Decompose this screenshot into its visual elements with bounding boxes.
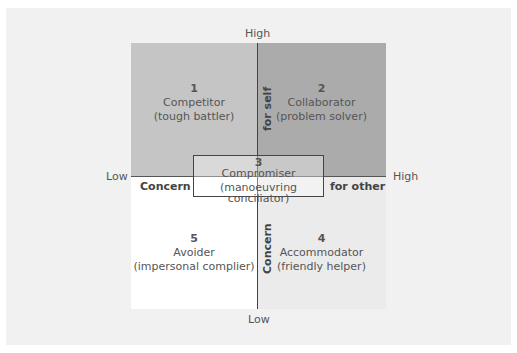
quadrant-number: 1 <box>131 82 257 96</box>
horizontal-title-left: Concern <box>140 180 191 193</box>
quadrant-number: 5 <box>131 232 257 246</box>
quadrant-4-label: 4 Accommodator (friendly helper) <box>257 232 386 274</box>
quadrant-title: Competitor <box>131 96 257 110</box>
axis-right-label: High <box>393 170 418 183</box>
quadrant-number: 2 <box>257 82 386 96</box>
quadrant-subtitle: (impersonal complier) <box>131 260 257 274</box>
vertical-title-top: for self <box>261 87 274 131</box>
quadrant-subtitle: (manoeuvring conciliator) <box>194 182 323 204</box>
quadrant-2-label: 2 Collaborator (problem solver) <box>257 82 386 124</box>
quadrant-subtitle: (problem solver) <box>257 110 386 124</box>
quadrant-number: 4 <box>257 232 386 246</box>
quadrant-title: Accommodator <box>257 246 386 260</box>
quadrant-title: Compromiser <box>194 168 323 179</box>
quadrant-subtitle: (tough battler) <box>131 110 257 124</box>
axis-left-label: Low <box>106 170 128 183</box>
horizontal-title-right: for other <box>330 180 385 193</box>
quadrant-5-label: 5 Avoider (impersonal complier) <box>131 232 257 274</box>
quadrant-subtitle: (friendly helper) <box>257 260 386 274</box>
axis-bottom-label: Low <box>248 313 270 326</box>
quadrant-1-label: 1 Competitor (tough battler) <box>131 82 257 124</box>
axis-top-label: High <box>245 27 270 40</box>
vertical-title-bottom: Concern <box>261 223 274 274</box>
quadrant-title: Collaborator <box>257 96 386 110</box>
quadrant-title: Avoider <box>131 246 257 260</box>
compromiser-box: 3 Compromiser (manoeuvring conciliator) <box>193 155 324 197</box>
